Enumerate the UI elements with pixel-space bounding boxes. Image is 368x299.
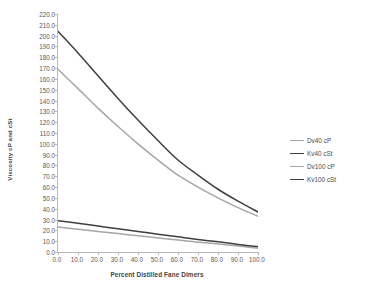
x-axis-title: Percent Distilled Fane Dimers xyxy=(57,271,257,278)
x-tick-mark xyxy=(238,252,239,255)
series-line xyxy=(58,31,258,212)
y-tick-mark xyxy=(55,122,58,123)
y-tick-label: 170.0 xyxy=(22,65,55,72)
legend-swatch-icon xyxy=(290,153,304,154)
y-tick-label: 160.0 xyxy=(22,75,55,82)
legend-entry[interactable]: Kv40 cSt xyxy=(290,147,366,160)
legend-swatch-icon xyxy=(290,140,304,141)
chart-legend: Dv40 cPKv40 cStDv100 cPKv100 cSt xyxy=(290,134,366,186)
y-tick-mark xyxy=(55,133,58,134)
legend-entry[interactable]: Dv100 cP xyxy=(290,160,366,173)
y-tick-label: 80.0 xyxy=(22,162,55,169)
legend-label: Kv100 cSt xyxy=(307,176,336,184)
y-tick-mark xyxy=(55,14,58,15)
y-tick-mark xyxy=(55,144,58,145)
y-axis-tick-labels: 0.010.020.030.040.050.060.070.080.090.01… xyxy=(22,14,55,252)
y-tick-label: 40.0 xyxy=(22,205,55,212)
x-tick-mark xyxy=(138,252,139,255)
legend-entry[interactable]: Dv40 cP xyxy=(290,134,366,147)
plot-lines xyxy=(58,14,258,252)
x-tick-mark xyxy=(58,252,59,255)
x-tick-mark xyxy=(198,252,199,255)
y-tick-label: 90.0 xyxy=(22,151,55,158)
y-tick-label: 10.0 xyxy=(22,238,55,245)
legend-label: Dv40 cP xyxy=(307,137,331,145)
y-tick-mark xyxy=(55,36,58,37)
y-tick-label: 220.0 xyxy=(22,11,55,18)
x-tick-label: 100.0 xyxy=(240,256,274,264)
y-tick-label: 20.0 xyxy=(22,227,55,234)
y-tick-mark xyxy=(55,209,58,210)
y-tick-label: 130.0 xyxy=(22,108,55,115)
y-tick-mark xyxy=(55,68,58,69)
y-tick-label: 190.0 xyxy=(22,43,55,50)
y-tick-mark xyxy=(55,25,58,26)
x-tick-mark xyxy=(178,252,179,255)
series-line xyxy=(58,69,258,216)
legend-swatch-icon xyxy=(290,166,304,167)
y-tick-label: 120.0 xyxy=(22,119,55,126)
y-tick-mark xyxy=(55,101,58,102)
legend-swatch-icon xyxy=(290,179,304,180)
y-tick-mark xyxy=(55,57,58,58)
y-tick-label: 70.0 xyxy=(22,173,55,180)
x-tick-mark xyxy=(158,252,159,255)
y-tick-mark xyxy=(55,176,58,177)
y-tick-mark xyxy=(55,241,58,242)
y-tick-mark xyxy=(55,90,58,91)
y-tick-label: 210.0 xyxy=(22,21,55,28)
y-tick-label: 100.0 xyxy=(22,140,55,147)
chart-container: Viscosity cP and cSt 0.010.020.030.040.0… xyxy=(0,0,368,299)
plot-area xyxy=(57,14,258,253)
y-axis-title: Viscosity cP and cSt xyxy=(0,0,18,299)
y-tick-label: 0.0 xyxy=(22,249,55,256)
y-tick-label: 140.0 xyxy=(22,97,55,104)
y-tick-mark xyxy=(55,165,58,166)
x-tick-mark xyxy=(98,252,99,255)
x-tick-mark xyxy=(258,252,259,255)
y-tick-label: 150.0 xyxy=(22,86,55,93)
y-tick-mark xyxy=(55,46,58,47)
y-tick-label: 50.0 xyxy=(22,194,55,201)
y-tick-label: 60.0 xyxy=(22,184,55,191)
series-line xyxy=(58,221,258,247)
y-tick-label: 180.0 xyxy=(22,54,55,61)
y-tick-mark xyxy=(55,198,58,199)
y-tick-mark xyxy=(55,230,58,231)
y-tick-mark xyxy=(55,220,58,221)
y-tick-mark xyxy=(55,111,58,112)
x-tick-mark xyxy=(118,252,119,255)
x-tick-mark xyxy=(218,252,219,255)
y-tick-mark xyxy=(55,79,58,80)
legend-label: Kv40 cSt xyxy=(307,150,333,158)
legend-entry[interactable]: Kv100 cSt xyxy=(290,173,366,186)
y-tick-label: 200.0 xyxy=(22,32,55,39)
x-tick-mark xyxy=(78,252,79,255)
y-tick-mark xyxy=(55,155,58,156)
x-axis-tick-labels: 0.010.020.030.040.050.060.070.080.090.01… xyxy=(57,256,257,268)
y-tick-label: 30.0 xyxy=(22,216,55,223)
series-line xyxy=(58,227,258,248)
y-tick-mark xyxy=(55,187,58,188)
y-tick-label: 110.0 xyxy=(22,130,55,137)
legend-label: Dv100 cP xyxy=(307,163,335,171)
